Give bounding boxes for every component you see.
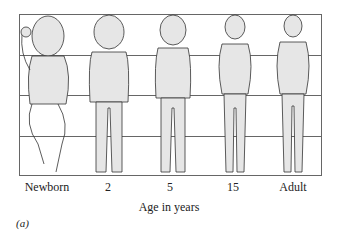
figure-adult bbox=[268, 14, 318, 176]
stage-label-newborn: Newborn bbox=[17, 180, 77, 195]
figure-age-15 bbox=[210, 14, 260, 176]
stage-label-2: 2 bbox=[78, 180, 138, 195]
figure-age-5 bbox=[148, 14, 198, 176]
panel-label: (a) bbox=[16, 217, 29, 229]
figure-newborn bbox=[18, 14, 78, 176]
stage-label-15: 15 bbox=[203, 180, 263, 195]
stage-label-5: 5 bbox=[140, 180, 200, 195]
axis-label: Age in years bbox=[0, 200, 338, 215]
stage-label-adult: Adult bbox=[263, 180, 323, 195]
figure-age-2 bbox=[84, 14, 134, 176]
